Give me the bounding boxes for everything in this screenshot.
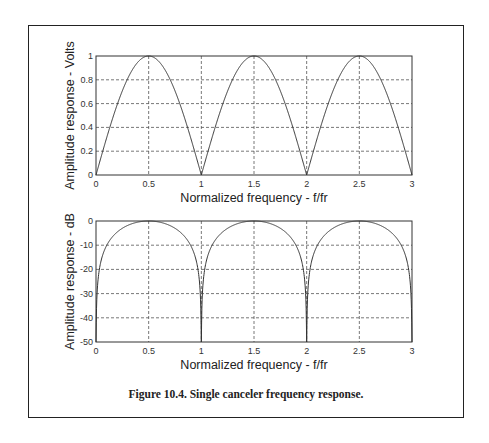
y-tick-label: -40: [80, 313, 93, 323]
y-tick-label: -20: [80, 264, 93, 274]
x-tick-label: 3: [409, 346, 414, 356]
x-tick-label: 0.5: [142, 346, 155, 356]
y-tick-label: 0.4: [80, 122, 93, 132]
chart-canvas: 00.511.522.5300.20.40.60.81Normalized fr…: [0, 0, 489, 443]
y-tick-label: 0: [88, 170, 93, 180]
x-tick-label: 2: [304, 179, 309, 189]
x-tick-label: 3: [409, 179, 414, 189]
x-tick-label: 0.5: [142, 179, 155, 189]
y-axis-label: Amplitude response - dB: [63, 213, 77, 350]
y-axis-label: Amplitude response - Volts: [63, 41, 77, 190]
y-tick-label: 0: [88, 216, 93, 226]
y-tick-label: 0.2: [80, 146, 93, 156]
x-tick-label: 0: [93, 346, 98, 356]
y-tick-label: 0.6: [80, 99, 93, 109]
x-tick-label: 0: [93, 179, 98, 189]
x-tick-label: 2: [304, 346, 309, 356]
y-tick-label: -50: [80, 337, 93, 347]
y-tick-label: 1: [88, 51, 93, 61]
plot-amplitude-volts: 00.511.522.5300.20.40.60.81Normalized fr…: [63, 41, 415, 205]
x-axis-label: Normalized frequency - f/fr: [180, 191, 327, 205]
x-tick-label: 1.5: [248, 346, 261, 356]
y-tick-label: -30: [80, 289, 93, 299]
x-tick-label: 1: [199, 346, 204, 356]
figure-caption: Figure 10.4. Single canceler frequency r…: [28, 388, 464, 400]
x-tick-label: 1: [199, 179, 204, 189]
x-tick-label: 1.5: [248, 179, 261, 189]
x-axis-label: Normalized frequency - f/fr: [180, 358, 327, 372]
plot-amplitude-db: 00.511.522.53-50-40-30-20-100Normalized …: [63, 213, 415, 372]
y-tick-label: -10: [80, 240, 93, 250]
x-tick-label: 2.5: [353, 179, 366, 189]
x-tick-label: 2.5: [353, 346, 366, 356]
y-tick-label: 0.8: [80, 75, 93, 85]
